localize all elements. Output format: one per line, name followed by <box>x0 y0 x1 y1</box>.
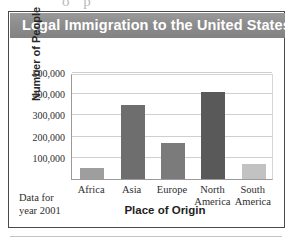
y-tick-label: 200,000 <box>13 132 65 143</box>
gridline <box>72 72 272 73</box>
plot-area <box>71 74 273 180</box>
bar-series <box>72 75 272 179</box>
bar <box>80 168 104 179</box>
data-source-note-line: year 2001 <box>19 205 61 218</box>
chart-title: Legal Immigration to the United States <box>22 17 291 33</box>
bar <box>161 143 185 179</box>
x-axis-title: Place of Origin <box>85 204 245 216</box>
data-source-note-line: Data for <box>19 192 61 205</box>
bar <box>121 105 145 179</box>
chart-title-bar: Legal Immigration to the United States <box>10 13 285 38</box>
page-scan-artifact-top: o p <box>62 0 96 10</box>
y-tick-label: 100,000 <box>13 153 65 164</box>
page-scan-artifact-bottom <box>10 236 282 237</box>
bar <box>242 164 266 179</box>
y-tick-label: 300,000 <box>13 110 65 121</box>
chart-figure-frame: Legal Immigration to the United States N… <box>8 11 285 228</box>
y-tick-label: 500,000 <box>13 68 65 79</box>
y-tick-label: 400,000 <box>13 89 65 100</box>
data-source-note: Data foryear 2001 <box>19 192 61 217</box>
bar <box>201 92 225 179</box>
